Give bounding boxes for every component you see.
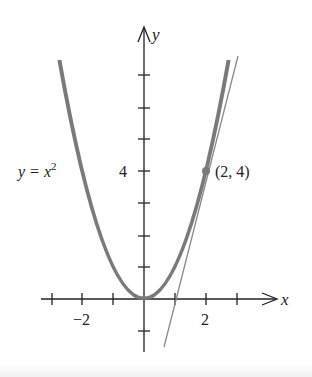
tick-label-2: 2 bbox=[201, 311, 209, 328]
curve-label: y = x2 bbox=[16, 160, 57, 181]
x-axis-label: x bbox=[280, 290, 289, 309]
tick-label-neg2: −2 bbox=[73, 311, 90, 328]
y-axis bbox=[138, 27, 150, 352]
y-axis-label: y bbox=[150, 25, 160, 44]
x-axis bbox=[41, 293, 277, 305]
curve-label-exponent: 2 bbox=[51, 160, 57, 172]
point-label: (2, 4) bbox=[215, 163, 250, 181]
parabola-chart: y x −2 2 4 (2, 4) y = x2 bbox=[0, 0, 312, 377]
tick-label-4: 4 bbox=[119, 163, 127, 180]
curve-label-base: y = x bbox=[16, 163, 51, 181]
tangent-line bbox=[164, 56, 238, 347]
point-2-4 bbox=[202, 167, 210, 175]
